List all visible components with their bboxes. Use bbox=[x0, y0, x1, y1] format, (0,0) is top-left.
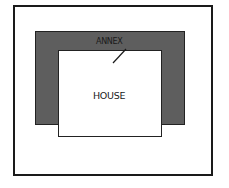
site-plan-diagram: ANNEX HOUSE bbox=[0, 0, 229, 188]
annex-label: ANNEX bbox=[96, 37, 122, 46]
house-label: HOUSE bbox=[93, 90, 125, 101]
